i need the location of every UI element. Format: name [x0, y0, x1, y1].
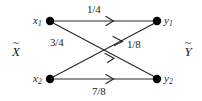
node-label-x2: x2: [33, 73, 42, 84]
node-label-y2: y2: [164, 73, 173, 84]
node-y2: [153, 75, 161, 83]
node-y1: [153, 17, 161, 25]
node-x2-sub: 2: [38, 77, 42, 86]
tilde-accent-x: ~: [7, 40, 25, 45]
output-ensemble-label: ~ Y: [180, 40, 196, 58]
edge-label-x2-y1: 1/8: [127, 39, 140, 50]
edge-label-x1-y1: 1/4: [87, 4, 100, 15]
node-y1-sub: 1: [169, 19, 173, 28]
node-label-y1: y1: [164, 15, 173, 26]
figure-canvas: x1 x2 y1 y2 1/4 3/4 1/8 7/8 ~ X ~ Y: [0, 0, 202, 101]
edge-label-x1-y2: 3/4: [50, 37, 63, 48]
tilde-accent-y: ~: [179, 40, 197, 45]
node-x1: [46, 17, 54, 25]
node-y2-sub: 2: [169, 77, 173, 86]
edge-label-x2-y2: 7/8: [92, 86, 105, 97]
node-label-x1: x1: [33, 15, 42, 26]
node-x2: [46, 75, 54, 83]
input-ensemble-label: ~ X: [8, 40, 24, 58]
node-x1-sub: 1: [38, 19, 42, 28]
